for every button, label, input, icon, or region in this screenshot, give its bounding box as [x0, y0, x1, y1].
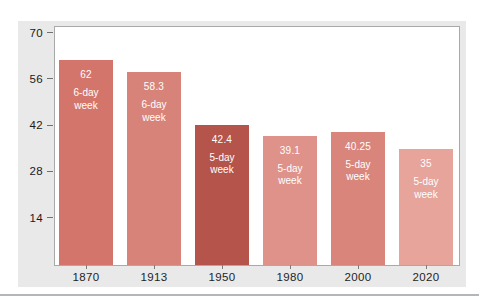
x-category: 1980 [259, 265, 321, 283]
x-category: 2000 [327, 265, 389, 283]
x-axis: 1870 1913 1950 1980 2000 2020 [54, 265, 460, 287]
bar-week-label: 5-day week [331, 159, 385, 184]
y-tick: 28 [18, 164, 54, 178]
bar-value-label: 39.1 [263, 145, 317, 156]
week-word: week [263, 175, 317, 188]
bar-week-label: 6-day week [127, 99, 181, 124]
x-category: 1870 [55, 265, 117, 283]
x-axis-label: 1913 [123, 271, 185, 283]
y-tick-label: 56 [30, 73, 43, 85]
week-type: 5-day [399, 176, 453, 189]
y-tick: 56 [18, 72, 54, 86]
bar-week-label: 5-day week [263, 163, 317, 188]
x-tick-mark [222, 265, 223, 269]
x-tick-mark [426, 265, 427, 269]
x-tick-mark [358, 265, 359, 269]
week-type: 5-day [331, 159, 385, 172]
bar-1950: 42.4 5-day week [195, 125, 249, 265]
bar-week-label: 5-day week [195, 152, 249, 177]
x-axis-label: 1980 [259, 271, 321, 283]
x-axis-label: 2000 [327, 271, 389, 283]
y-tick-mark [47, 125, 53, 126]
y-tick-label: 70 [30, 27, 43, 39]
y-tick: 70 [18, 26, 54, 40]
y-tick-mark [47, 217, 53, 218]
y-axis: 70 56 42 28 14 [18, 26, 54, 264]
week-word: week [127, 112, 181, 125]
bar-value-label: 40.25 [331, 141, 385, 152]
x-axis-label: 1870 [55, 271, 117, 283]
chart-panel: 70 56 42 28 14 62 6-day week 58. [18, 21, 466, 287]
bar-value-label: 62 [59, 69, 113, 80]
y-tick-mark [47, 32, 53, 33]
y-tick-label: 14 [30, 212, 43, 224]
x-tick-mark [154, 265, 155, 269]
y-tick: 14 [18, 211, 54, 225]
week-word: week [195, 164, 249, 177]
week-type: 6-day [59, 87, 113, 100]
x-category: 1950 [191, 265, 253, 283]
x-tick-mark [86, 265, 87, 269]
bar-value-label: 58.3 [127, 81, 181, 92]
week-type: 5-day [195, 152, 249, 165]
bar-1913: 58.3 6-day week [127, 72, 181, 265]
week-word: week [399, 189, 453, 202]
bottom-divider [0, 294, 479, 296]
x-tick-mark [290, 265, 291, 269]
bar-value-label: 42.4 [195, 134, 249, 145]
x-axis-label: 2020 [395, 271, 457, 283]
x-category: 1913 [123, 265, 185, 283]
bar-2000: 40.25 5-day week [331, 132, 385, 265]
bar-week-label: 6-day week [59, 87, 113, 112]
bar-1980: 39.1 5-day week [263, 136, 317, 265]
bar-value-label: 35 [399, 158, 453, 169]
bar-2020: 35 5-day week [399, 149, 453, 265]
week-type: 6-day [127, 99, 181, 112]
y-tick: 42 [18, 118, 54, 132]
x-axis-label: 1950 [191, 271, 253, 283]
bar-week-label: 5-day week [399, 176, 453, 201]
y-tick-mark [47, 78, 53, 79]
week-word: week [59, 100, 113, 113]
week-word: week [331, 171, 385, 184]
y-tick-label: 28 [30, 165, 43, 177]
bar-1870: 62 6-day week [59, 60, 113, 265]
plot-area: 62 6-day week 58.3 6-day week 42.4 5-day… [54, 26, 460, 266]
week-type: 5-day [263, 163, 317, 176]
x-category: 2020 [395, 265, 457, 283]
y-tick-mark [47, 171, 53, 172]
y-tick-label: 42 [30, 119, 43, 131]
